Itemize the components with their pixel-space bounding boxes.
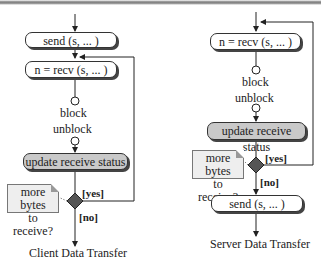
server-recv-label: n = recv (s, ... ) bbox=[219, 35, 292, 49]
server-yes-guard: [yes] bbox=[265, 151, 287, 165]
server-recv-action: n = recv (s, ... ) bbox=[210, 33, 301, 50]
server-caption: Server Data Transfer bbox=[210, 237, 310, 252]
client-recv-label: n = recv (s, ... ) bbox=[34, 63, 107, 77]
client-decision-note: more bytes to receive? bbox=[7, 184, 59, 213]
decision-diamond-icon bbox=[67, 193, 83, 209]
client-recv-action: n = recv (s, ... ) bbox=[25, 61, 117, 78]
block-circle-icon bbox=[71, 97, 79, 105]
client-unblock-label: unblock bbox=[53, 122, 92, 136]
decision-diamond-icon bbox=[248, 157, 264, 173]
server-decision-note: more bytes to receive? bbox=[192, 150, 244, 179]
server-no-guard: [no] bbox=[260, 175, 279, 189]
block-circle-icon bbox=[252, 66, 260, 74]
client-update-label: update receive status bbox=[26, 155, 126, 169]
client-note-line2: to receive? bbox=[8, 212, 58, 238]
unblock-circle-icon bbox=[71, 137, 79, 145]
server-send-action: send (s, ... ) bbox=[211, 195, 303, 212]
client-note-line1: more bytes bbox=[8, 186, 58, 212]
server-block-label: block bbox=[242, 75, 269, 89]
unblock-circle-icon bbox=[252, 104, 260, 112]
server-unblock-label: unblock bbox=[235, 91, 274, 105]
server-update-status-action: update receive status bbox=[207, 122, 306, 140]
client-block-label: block bbox=[60, 106, 87, 120]
client-send-action: send (s, ... ) bbox=[25, 32, 117, 48]
client-no-guard: [no] bbox=[79, 210, 98, 224]
client-yes-guard: [yes] bbox=[82, 186, 104, 200]
client-caption: Client Data Transfer bbox=[29, 246, 127, 261]
client-send-label: send (s, ... ) bbox=[43, 34, 99, 48]
server-note-line1: more bytes bbox=[193, 152, 243, 178]
client-update-status-action: update receive status bbox=[23, 153, 128, 170]
server-send-label: send (s, ... ) bbox=[229, 197, 285, 211]
